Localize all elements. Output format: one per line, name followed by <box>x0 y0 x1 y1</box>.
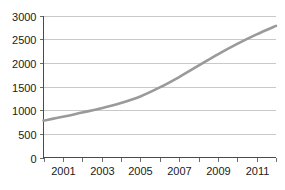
x-tick-label: 2001 <box>51 165 75 177</box>
y-tick-label: 2000 <box>12 58 36 70</box>
y-tick-label: 3000 <box>12 11 36 23</box>
x-tick-label: 2009 <box>206 165 230 177</box>
y-tick-label: 500 <box>18 129 36 141</box>
x-tick-label: 2011 <box>246 165 270 177</box>
y-tick-label: 1000 <box>12 105 36 117</box>
chart-canvas: 050010001500200025003000 200120032005200… <box>0 0 285 190</box>
y-tick-label: 0 <box>30 153 36 165</box>
x-tick-label: 2003 <box>90 165 114 177</box>
y-tick-label: 2500 <box>12 34 36 46</box>
x-tick-label: 2005 <box>128 165 152 177</box>
line-chart: 050010001500200025003000 200120032005200… <box>0 0 285 190</box>
y-tick-label: 1500 <box>12 82 36 94</box>
x-tick-label: 2007 <box>167 165 191 177</box>
